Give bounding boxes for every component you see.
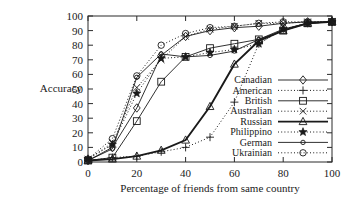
x-tick-label: 60	[229, 167, 241, 179]
y-axis-label: Accuracy	[40, 82, 83, 94]
y-tick-label: 20	[72, 127, 84, 139]
legend-label-german: German	[240, 137, 272, 148]
y-tick-label: 100	[67, 10, 84, 22]
legend-label-ukrainian: Ukrainian	[232, 147, 272, 158]
y-tick-label: 70	[72, 54, 84, 66]
legend-label-russian: Russian	[240, 116, 272, 127]
legend-label-american: American	[233, 85, 272, 96]
chart-background	[0, 0, 347, 200]
x-tick-label: 0	[85, 167, 91, 179]
y-tick-label: 80	[72, 39, 84, 51]
x-axis-label: Percentage of friends from same country	[120, 182, 300, 194]
y-tick-label: 90	[72, 25, 84, 37]
legend-label-australian: Australian	[230, 105, 272, 116]
y-tick-label: 40	[72, 98, 84, 110]
y-tick-label: 0	[78, 156, 84, 168]
x-tick-label: 40	[180, 167, 192, 179]
x-tick-label: 20	[131, 167, 143, 179]
y-tick-label: 10	[72, 141, 84, 153]
y-tick-label: 60	[72, 68, 84, 80]
accuracy-vs-friends-chart: 0102030405060708090100 020406080100 Accu…	[0, 0, 347, 200]
y-tick-label: 30	[72, 112, 84, 124]
legend-label-british: British	[245, 95, 272, 106]
legend-label-canadian: Canadian	[234, 74, 272, 85]
x-tick-label: 80	[278, 167, 290, 179]
x-tick-label: 100	[324, 167, 341, 179]
legend-label-philippino: Philippino	[230, 126, 272, 137]
